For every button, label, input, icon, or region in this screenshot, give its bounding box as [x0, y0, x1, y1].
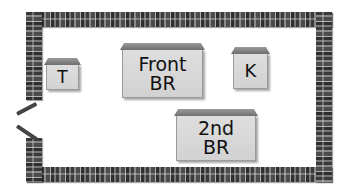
room-front-br-label-line2: BR — [149, 74, 175, 93]
room-k: K — [233, 53, 268, 89]
room-t-roof — [44, 58, 81, 65]
wall-left-upper — [26, 12, 42, 100]
wall-top — [26, 12, 332, 27]
room-2nd-br-label-line2: BR — [203, 138, 229, 157]
room-front-br-roof — [120, 43, 205, 50]
door-leaf-upper — [16, 102, 37, 116]
wall-right — [316, 12, 332, 182]
room-2nd-br-roof — [174, 109, 258, 116]
room-front-br: Front BR — [122, 49, 203, 98]
wall-bottom — [26, 167, 332, 182]
wall-left-lower — [26, 138, 42, 182]
room-t: T — [46, 64, 79, 90]
room-k-roof — [231, 47, 270, 54]
room-2nd-br: 2nd BR — [176, 115, 256, 161]
room-k-label: K — [245, 62, 257, 80]
room-t-label: T — [57, 69, 67, 86]
room-front-br-label-line1: Front — [138, 55, 186, 74]
